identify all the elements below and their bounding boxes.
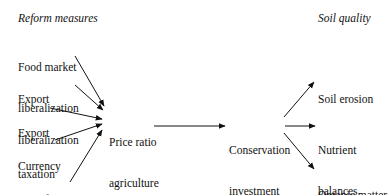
node-line: Conservation <box>229 144 290 158</box>
node-conservation-investment: Conservation investment <box>229 117 290 195</box>
node-line: Price ratio <box>109 136 159 150</box>
node-organic-matter-balances: Organic matter balances <box>318 162 387 195</box>
node-line: Nutrient <box>318 144 358 158</box>
node-line: Organic matter <box>318 189 387 195</box>
node-line: agriculture <box>109 177 159 191</box>
node-line: Manufactures <box>18 193 81 195</box>
node-price-ratio: Price ratio agriculture /non-agric. <box>109 109 159 195</box>
header-reform-measures: Reform measures <box>18 12 98 26</box>
node-manufactures-protection: Manufactures protection <box>18 166 81 195</box>
node-line: investment <box>229 185 290 196</box>
arrow-conservation-to-erosion <box>284 82 314 117</box>
node-line: Soil erosion <box>318 93 373 107</box>
header-soil-quality: Soil quality <box>318 12 371 26</box>
node-soil-erosion: Soil erosion <box>318 66 373 120</box>
